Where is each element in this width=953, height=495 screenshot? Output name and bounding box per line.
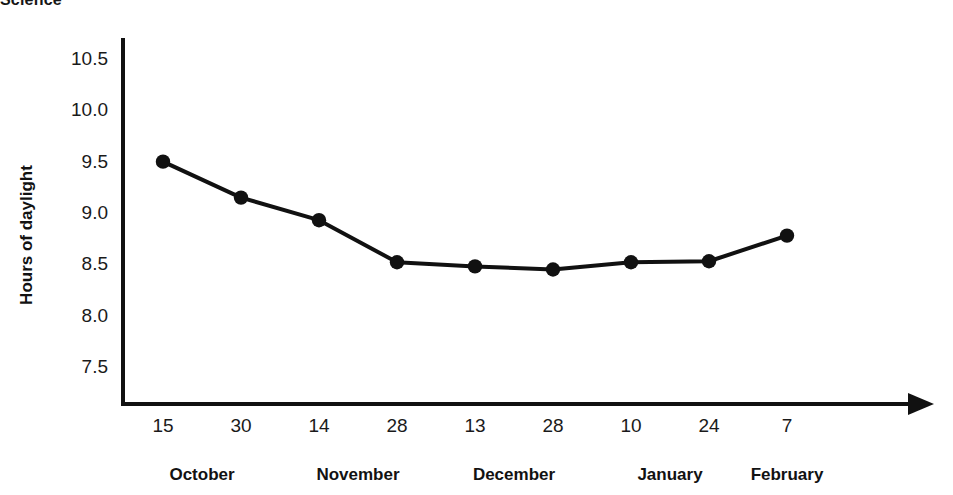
- x-day-label: 15: [133, 416, 193, 435]
- x-day-label: 10: [601, 416, 661, 435]
- x-month-label: February: [707, 466, 867, 483]
- series-line: [163, 162, 787, 270]
- x-month-label: October: [122, 466, 282, 483]
- data-point-marker: [468, 259, 482, 273]
- x-month-label: November: [278, 466, 438, 483]
- data-series: [156, 154, 794, 276]
- data-point-marker: [780, 228, 794, 242]
- series-markers: [156, 154, 794, 276]
- x-day-label: 7: [757, 416, 817, 435]
- x-day-label: 28: [523, 416, 583, 435]
- data-point-marker: [546, 262, 560, 276]
- data-point-marker: [702, 254, 716, 268]
- x-day-label: 14: [289, 416, 349, 435]
- axes: [121, 38, 934, 415]
- x-month-label: December: [434, 466, 594, 483]
- data-point-marker: [312, 213, 326, 227]
- data-point-marker: [234, 190, 248, 204]
- x-day-label: 24: [679, 416, 739, 435]
- chart-figure: Science Hours of daylight 10.510.09.59.0…: [0, 0, 953, 495]
- x-day-label: 30: [211, 416, 271, 435]
- data-point-marker: [390, 255, 404, 269]
- data-point-marker: [624, 255, 638, 269]
- x-day-label: 28: [367, 416, 427, 435]
- x-day-label: 13: [445, 416, 505, 435]
- x-axis-arrowhead: [908, 393, 934, 415]
- data-point-marker: [156, 154, 170, 168]
